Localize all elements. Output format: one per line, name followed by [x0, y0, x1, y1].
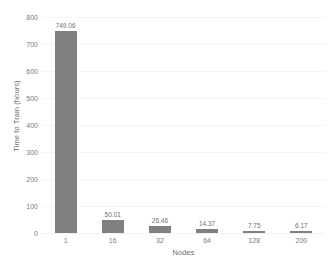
- y-axis-tick-label: 0: [20, 230, 38, 237]
- y-axis-tick-labels: 0100200300400500600700800: [20, 14, 38, 233]
- x-axis-tick-label: 1: [42, 236, 89, 245]
- x-axis-tick-labels: 1163264128200: [42, 236, 325, 246]
- y-axis-tick-label: 800: [20, 14, 38, 21]
- bar-group: 6.17: [278, 17, 325, 233]
- y-axis-tick-label: 700: [20, 41, 38, 48]
- bar-value-label: 50.01: [105, 211, 121, 218]
- x-axis-tick-label: 32: [136, 236, 183, 245]
- bar[interactable]: [290, 231, 312, 233]
- bar[interactable]: [102, 220, 124, 234]
- x-axis-title: Nodes: [42, 248, 325, 257]
- bar-value-label: 14.37: [199, 220, 215, 227]
- y-axis-tick-label: 600: [20, 68, 38, 75]
- x-axis-tick-label: 200: [278, 236, 325, 245]
- y-axis-tick-label: 200: [20, 176, 38, 183]
- y-axis-tick-label: 400: [20, 122, 38, 129]
- bar-chart: Time to Train (hours) 010020030040050060…: [0, 0, 332, 267]
- bar-value-label: 7.75: [248, 222, 261, 229]
- bar[interactable]: [243, 231, 265, 233]
- bar-group: 749.06: [42, 17, 89, 233]
- x-axis-tick-label: 64: [184, 236, 231, 245]
- bar-value-label: 6.17: [295, 222, 308, 229]
- y-axis-tick-label: 300: [20, 149, 38, 156]
- bars-layer: 749.0650.0126.4614.377.756.17: [42, 17, 325, 233]
- bar-value-label: 26.46: [152, 217, 168, 224]
- bar[interactable]: [55, 31, 77, 233]
- bar-group: 50.01: [89, 17, 136, 233]
- bar[interactable]: [196, 229, 218, 233]
- y-axis-tick-label: 100: [20, 203, 38, 210]
- x-axis-tick-label: 128: [231, 236, 278, 245]
- y-axis-tick-label: 500: [20, 95, 38, 102]
- bar[interactable]: [149, 226, 171, 233]
- plot-area: 749.0650.0126.4614.377.756.17: [42, 17, 325, 233]
- bar-group: 26.46: [136, 17, 183, 233]
- bar-group: 7.75: [231, 17, 278, 233]
- gridline: [42, 233, 325, 234]
- bar-value-label: 749.06: [56, 22, 76, 29]
- x-axis-tick-label: 16: [89, 236, 136, 245]
- bar-group: 14.37: [184, 17, 231, 233]
